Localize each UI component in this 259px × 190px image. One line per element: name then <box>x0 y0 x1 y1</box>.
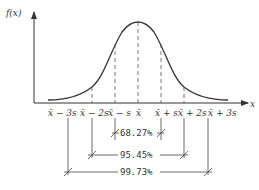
svg-text:x̄ − s: x̄ − s <box>108 108 131 118</box>
interval-label-1s: 68.27% <box>120 128 153 138</box>
interval-label-2s: 95.45% <box>120 150 153 160</box>
normal-distribution-diagram: f(x) x x̄ − 3s x̄ − 2s x̄ − s x̄ x̄ + s … <box>0 0 259 190</box>
svg-text:x̄ − 2s: x̄ − 2s <box>80 108 109 118</box>
svg-text:x̄ − 3s: x̄ − 3s <box>48 108 77 118</box>
svg-text:x̄ + 2s: x̄ + 2s <box>178 108 207 118</box>
svg-text:x̄: x̄ <box>136 108 141 118</box>
tick-labels: x̄ − 3s x̄ − 2s x̄ − s x̄ x̄ + s x̄ + 2s… <box>48 108 237 118</box>
sigma-lines <box>92 22 184 103</box>
svg-text:x̄ + s: x̄ + s <box>155 108 178 118</box>
interval-label-3s: 99.73% <box>120 167 153 177</box>
y-axis-label: f(x) <box>5 8 22 18</box>
svg-text:x̄ + 3s: x̄ + 3s <box>208 108 237 118</box>
x-axis-label: x <box>250 99 255 109</box>
